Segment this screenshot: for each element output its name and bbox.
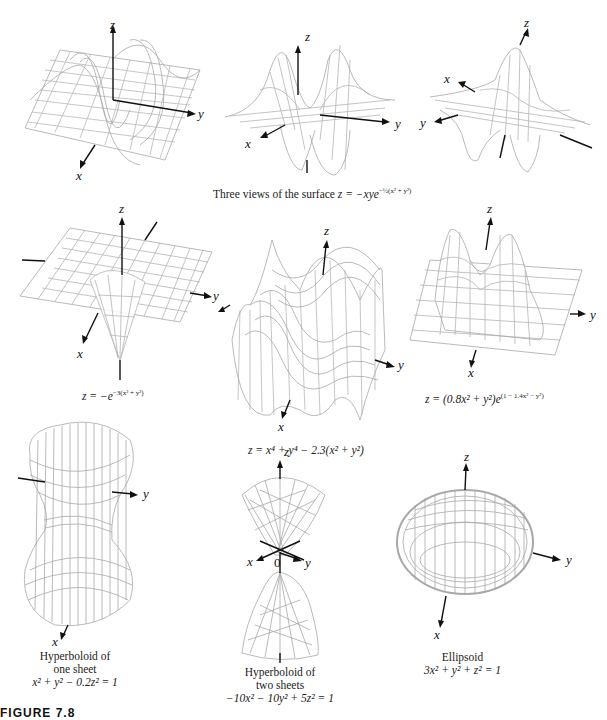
y-axis-label: y bbox=[590, 308, 596, 321]
panel-saddle-view-3: z x y bbox=[410, 0, 607, 180]
y-axis-label: y bbox=[395, 117, 401, 130]
y-axis-label: y bbox=[198, 107, 204, 120]
panel-saddle-view-1: z y x bbox=[0, 0, 210, 180]
figure-label: FIGURE 7.8 bbox=[0, 706, 75, 720]
y-axis-label: y bbox=[305, 556, 311, 569]
ellipsoid-caption: Ellipsoid 3x² + y² + z² = 1 bbox=[415, 651, 510, 677]
z-axis-label: z bbox=[284, 445, 289, 458]
z-axis-label: z bbox=[464, 450, 469, 463]
caption-line-1: Ellipsoid bbox=[415, 651, 510, 664]
panel-quartic: z y x bbox=[210, 200, 410, 430]
surface-wireframe bbox=[0, 0, 210, 180]
x-axis-label: x bbox=[247, 555, 253, 568]
x-axis-label: x bbox=[468, 366, 474, 379]
x-axis-label: x bbox=[278, 420, 284, 433]
surface-wireframe bbox=[410, 0, 607, 180]
caption-equation: z = (0.8x² + y²)e bbox=[425, 393, 501, 405]
z-axis-label: z bbox=[110, 18, 115, 31]
caption-equation: −10x² − 10y² + 5z² = 1 bbox=[220, 692, 340, 705]
panel-well: z y x bbox=[0, 200, 220, 380]
y-axis-label: y bbox=[143, 487, 149, 500]
x-axis-label: x bbox=[434, 628, 440, 641]
surface-wireframe bbox=[210, 0, 410, 180]
caption-line-2: one sheet bbox=[25, 663, 125, 676]
x-axis-label: x bbox=[245, 137, 251, 150]
panel-hyperboloid-one-sheet: y x bbox=[0, 400, 200, 645]
x-axis-label: x bbox=[77, 347, 83, 360]
panel-ellipsoid: z y x bbox=[400, 420, 607, 635]
caption-prefix: Three views of the surface bbox=[213, 188, 338, 200]
panel-hyperboloid-two-sheets: z x 0 y bbox=[200, 455, 350, 665]
caption-equation: x² + y² − 0.2z² = 1 bbox=[25, 676, 125, 689]
y-axis-label: y bbox=[398, 358, 404, 371]
surface-wireframe bbox=[0, 400, 200, 645]
y-axis-label: y bbox=[420, 116, 426, 129]
hyperboloid-two-sheets-caption: Hyperboloid of two sheets −10x² − 10y² +… bbox=[220, 666, 340, 706]
surface-wireframe bbox=[0, 200, 220, 380]
caption-exponent: −3(x² + y²) bbox=[113, 389, 144, 397]
twin-peaks-caption: z = (0.8x² + y²)e(1 − 1.4x² − y²) bbox=[425, 392, 544, 406]
surface-wireframe bbox=[210, 200, 410, 430]
z-axis-label: z bbox=[524, 16, 529, 29]
surface-wireframe bbox=[410, 190, 607, 380]
caption-equation: 3x² + y² + z² = 1 bbox=[415, 664, 510, 677]
row1-caption: Three views of the surface z = −xye−½(x²… bbox=[213, 187, 411, 201]
origin-label: 0 bbox=[274, 556, 281, 569]
y-axis-label: y bbox=[566, 553, 572, 566]
x-axis-label: x bbox=[52, 635, 58, 648]
z-axis-label: z bbox=[305, 30, 310, 43]
x-axis-label: x bbox=[76, 169, 82, 182]
surface-wireframe bbox=[400, 420, 607, 635]
caption-line-1: Hyperboloid of bbox=[220, 666, 340, 679]
caption-exponent: −½(x² + y²) bbox=[379, 187, 412, 195]
panel-saddle-view-2: z y x bbox=[210, 0, 410, 180]
caption-line-2: two sheets bbox=[220, 679, 340, 692]
caption-line-1: Hyperboloid of bbox=[25, 650, 125, 663]
panel-twin-peaks: z y x bbox=[410, 190, 607, 380]
caption-exponent: (1 − 1.4x² − y²) bbox=[501, 392, 544, 400]
hyperboloid-one-sheet-caption: Hyperboloid of one sheet x² + y² − 0.2z²… bbox=[25, 650, 125, 690]
x-axis-label: x bbox=[444, 72, 450, 85]
z-axis-label: z bbox=[119, 202, 124, 215]
z-axis-label: z bbox=[324, 224, 329, 237]
z-axis-label: z bbox=[487, 202, 492, 215]
caption-equation: z = −xye bbox=[338, 188, 379, 200]
